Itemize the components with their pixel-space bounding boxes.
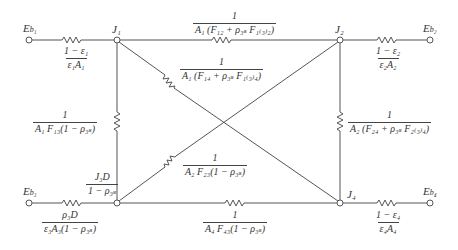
fraction-num: 1 (211, 153, 220, 165)
node-j3d (114, 200, 120, 206)
label-j3d: J₃D 1 − ρ₃ₛ (86, 172, 118, 196)
fraction-num: 1 (231, 210, 240, 222)
node-eb2 (427, 37, 433, 43)
fraction-num: 1 − ε₄ (374, 210, 402, 222)
node-eb3 (26, 200, 32, 206)
label-j3d-num: J₃D (93, 172, 112, 184)
label-eb2-sub: b₂ (430, 25, 437, 34)
node-j1 (114, 37, 120, 43)
label-eb2: Eb₂ (423, 23, 437, 34)
fraction-den: ε₃A₃(1 − ρ₃ₛ) (42, 222, 98, 235)
fraction-num: 1 (217, 57, 226, 69)
label-j1: J₁ (112, 24, 121, 35)
fraction-den: A₂ F₂₃(1 − ρ₃ₛ) (183, 165, 247, 178)
label-eb4-sub: b₄ (430, 188, 437, 197)
wire-j2-eb2 (343, 37, 427, 43)
wire-eb1-j1 (32, 37, 114, 43)
fraction-den: A₁ (F₁₂ + ρ₃ₛ F₁₍₃₎₂) (193, 23, 276, 36)
node-j4 (337, 200, 343, 206)
label-eb4: Eb₄ (423, 186, 437, 197)
wire-j1-j2 (120, 37, 337, 43)
label-eb1: Eb₁ (23, 23, 37, 34)
label-eb1-sub: b₁ (30, 25, 37, 34)
resistance-eb1-j1: 1 − ε₁ ε₁A₁ (62, 46, 90, 70)
radiation-network-diagram: Eb₁ J₁ J₂ Eb₂ Eb₃ J₄ Eb₄ J₃D 1 − ρ₃ₛ 1 −… (0, 0, 458, 250)
resistance-j4-eb4: 1 − ε₄ ε₄A₄ (374, 210, 402, 234)
resistance-j3d-j2: 1 A₂ F₂₃(1 − ρ₃ₛ) (183, 153, 247, 177)
fraction-den: ε₂A₂ (378, 58, 399, 71)
fraction-num: 1 (385, 110, 394, 122)
label-j4: J₄ (347, 189, 356, 200)
fraction-den: A₁ F₁₃(1 − ρ₃ₛ) (33, 122, 97, 135)
fraction-den: A₁ (F₁₄ + ρ₃ₛ F₁₍₃₎₄) (180, 69, 263, 82)
fraction-den: ε₄A₄ (378, 222, 399, 235)
label-eb3-sub: b₃ (30, 188, 37, 197)
fraction-den: A₂ (F₂₄ + ρ₃ₛ F₂₍₃₎₄) (348, 122, 431, 135)
resistance-eb3-j3d: ρ₃D ε₃A₃(1 − ρ₃ₛ) (42, 210, 98, 234)
wire-j3d-j4 (120, 200, 337, 206)
resistance-j1-j4: 1 A₁ (F₁₄ + ρ₃ₛ F₁₍₃₎₄) (180, 57, 263, 81)
label-j3d-den: 1 − ρ₃ₛ (86, 184, 118, 197)
fraction-den: ε₁A₁ (66, 58, 87, 71)
fraction-den: A₄ F₄₃(1 − ρ₃ₛ) (203, 222, 267, 235)
wire-eb3-j3d (32, 200, 114, 206)
label-eb2-main: E (423, 22, 430, 34)
resistance-j2-eb2: 1 − ε₂ ε₂A₂ (374, 46, 402, 70)
label-eb1-main: E (23, 22, 30, 34)
label-eb3-main: E (23, 185, 30, 197)
resistance-j1-j3d: 1 A₁ F₁₃(1 − ρ₃ₛ) (33, 110, 97, 134)
fraction-num: 1 (61, 110, 70, 122)
resistance-j2-j4: 1 A₂ (F₂₄ + ρ₃ₛ F₂₍₃₎₄) (348, 110, 431, 134)
fraction-num: ρ₃D (60, 210, 80, 222)
fraction-num: 1 − ε₁ (62, 46, 90, 58)
wire-j2-j4 (337, 43, 343, 200)
label-eb3: Eb₃ (23, 186, 37, 197)
resistance-j1-j2: 1 A₁ (F₁₂ + ρ₃ₛ F₁₍₃₎₂) (193, 11, 276, 35)
label-eb4-main: E (423, 185, 430, 197)
wire-j4-eb4 (343, 200, 427, 206)
fraction-num: 1 (230, 11, 239, 23)
resistance-j3d-j4: 1 A₄ F₄₃(1 − ρ₃ₛ) (203, 210, 267, 234)
node-j2 (337, 37, 343, 43)
node-eb4 (427, 200, 433, 206)
node-eb1 (26, 37, 32, 43)
label-j2: J₂ (335, 24, 344, 35)
fraction-num: 1 − ε₂ (374, 46, 402, 58)
